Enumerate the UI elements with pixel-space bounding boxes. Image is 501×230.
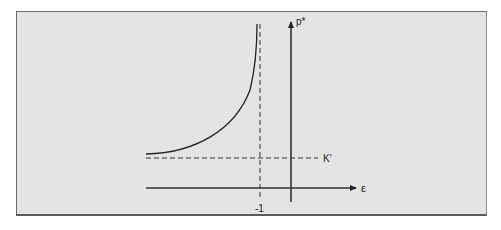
diagram-canvas: p* ε K' -1 xyxy=(0,0,501,230)
x-axis-label: ε xyxy=(361,182,366,194)
vertical-asymptote-label: -1 xyxy=(255,203,264,214)
function-curve xyxy=(146,24,257,154)
horizontal-asymptote-label: K' xyxy=(323,153,332,164)
y-axis-label: p* xyxy=(296,16,306,27)
